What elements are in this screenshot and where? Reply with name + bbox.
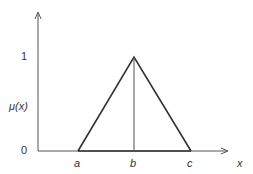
membership-plot: [0, 0, 253, 174]
y-tick-0: 0: [21, 145, 27, 156]
x-point-a: a: [74, 158, 80, 169]
y-tick-1: 1: [21, 51, 27, 62]
x-point-b: b: [130, 158, 136, 169]
y-axis-label: μ(x): [9, 101, 28, 112]
x-axis-label: x: [237, 158, 243, 169]
x-point-c: c: [187, 158, 193, 169]
